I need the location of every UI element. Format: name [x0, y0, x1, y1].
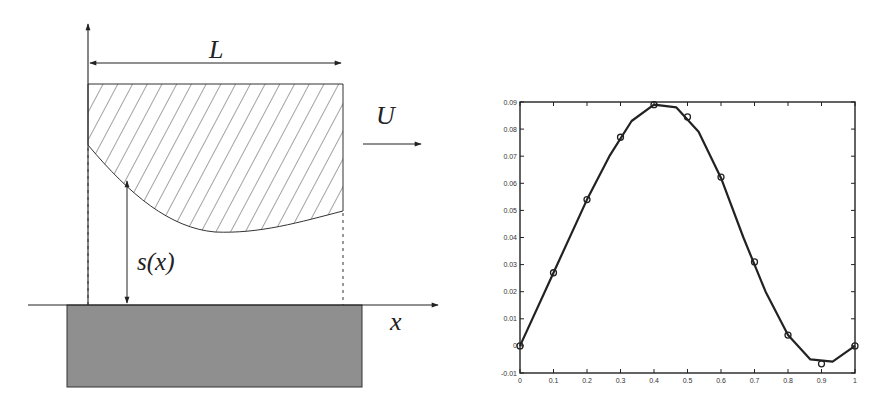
y-tick-label: 0.02: [503, 288, 517, 295]
x-tick-label: 0.8: [783, 377, 793, 384]
x-tick-label: 0.3: [616, 377, 626, 384]
y-tick-label: 0.04: [503, 234, 517, 241]
hatched-slider: [80, 76, 360, 246]
x-tick-label: 0.6: [716, 377, 726, 384]
y-tick-label: 0.09: [503, 99, 517, 106]
x-tick-label: 0.2: [582, 377, 592, 384]
y-tick-label: 0.08: [503, 126, 517, 133]
y-tick-label: 0.03: [503, 261, 517, 268]
x-tick-label: 0.5: [683, 377, 693, 384]
chart-svg: -0.0100.010.020.030.040.050.060.070.080.…: [450, 0, 879, 403]
ground-block: [67, 305, 362, 387]
x-tick-label: 0: [518, 377, 522, 384]
y-tick-label: -0.01: [501, 370, 517, 377]
x-tick-label: 0.4: [649, 377, 659, 384]
y-tick-label: 0.06: [503, 180, 517, 187]
gap-profile-chart: -0.0100.010.020.030.040.050.060.070.080.…: [450, 0, 879, 403]
y-tick-label: 0.05: [503, 207, 517, 214]
x-tick-label: 1: [853, 377, 857, 384]
x-axis-label: x: [389, 307, 402, 336]
x-tick-label: 0.1: [549, 377, 559, 384]
gap-label: s(x): [137, 248, 174, 276]
slider-bearing-diagram: L U s(x) x: [0, 0, 450, 403]
diagram-svg: L U s(x) x: [0, 0, 450, 403]
y-tick-label: 0.07: [503, 153, 517, 160]
velocity-label: U: [376, 101, 397, 130]
length-label: L: [208, 35, 223, 64]
y-tick-label: 0.01: [503, 315, 517, 322]
x-tick-label: 0.7: [750, 377, 760, 384]
x-tick-label: 0.9: [817, 377, 827, 384]
